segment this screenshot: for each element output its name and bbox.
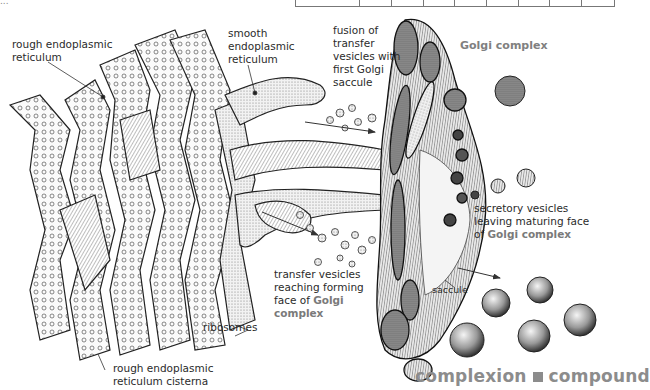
label-line: vesicles with	[333, 50, 400, 63]
label-line: reticulum	[228, 53, 295, 66]
label-line: reticulum	[12, 51, 112, 64]
label-rough-er: rough endoplasmic reticulum	[12, 38, 112, 64]
golgi-complex-title: Golgi complex	[460, 39, 548, 52]
label-ribosomes: ribosomes	[203, 321, 257, 334]
label-line: of Golgi complex	[474, 228, 589, 241]
transfer-vesicles	[297, 105, 377, 268]
label-line: first Golgi	[333, 63, 400, 76]
label-bold: Golgi complex	[487, 228, 571, 240]
label-line: fusion of	[333, 24, 400, 37]
label-line: endoplasmic	[228, 40, 295, 53]
label-line: face of Golgi	[274, 294, 364, 307]
label-saccule: saccule	[432, 283, 468, 296]
label-secretory-vesicles: secretory vesicles leaving maturing face…	[474, 202, 589, 241]
label-line: smooth	[228, 27, 295, 40]
footer-word-left: complexion	[415, 366, 527, 386]
label-line: secretory vesicles	[474, 202, 589, 215]
label-bold: Golgi	[313, 294, 344, 306]
label-bold: complex	[274, 307, 364, 320]
smooth-er-tubes	[225, 78, 385, 247]
label-line: transfer	[333, 37, 400, 50]
label-smooth-er: smooth endoplasmic reticulum	[228, 27, 295, 66]
label-line: leaving maturing face	[474, 215, 589, 228]
dictionary-footer: complexioncompound	[415, 366, 650, 386]
label-line: reticulum cisterna	[113, 375, 213, 388]
label-line: reaching forming	[274, 281, 364, 294]
footer-word-right: compound	[549, 366, 650, 386]
rough-er-stack	[10, 30, 255, 360]
square-separator-icon	[533, 372, 543, 382]
label-line: transfer vesicles	[274, 268, 364, 281]
label-line: rough endoplasmic	[12, 38, 112, 51]
label-text: of	[474, 228, 487, 240]
label-line: saccule	[333, 76, 400, 89]
label-transfer-vesicles: transfer vesicles reaching forming face …	[274, 268, 364, 320]
label-line: rough endoplasmic	[113, 362, 213, 375]
label-text: face of	[274, 294, 313, 306]
label-fusion: fusion of transfer vesicles with first G…	[333, 24, 400, 89]
label-rough-er-cisterna: rough endoplasmic reticulum cisterna	[113, 362, 213, 388]
